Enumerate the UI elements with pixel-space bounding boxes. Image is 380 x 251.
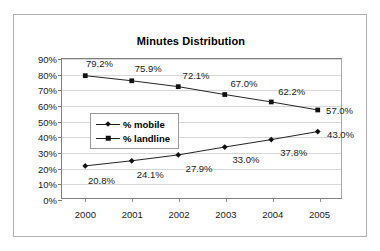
chart-legend: % mobile % landline xyxy=(90,113,179,149)
chart-frame: Minutes Distribution 0%10%20%30%40%50%60… xyxy=(13,14,367,237)
y-tick-label: 60% xyxy=(38,101,57,112)
data-label: 62.2% xyxy=(278,85,305,96)
data-label: 57.0% xyxy=(326,104,353,115)
data-label: 37.8% xyxy=(280,146,307,157)
diamond-marker-icon xyxy=(82,163,88,169)
y-tick-label: 70% xyxy=(38,85,57,96)
data-label: 79.2% xyxy=(86,57,113,68)
x-tick-label: 2002 xyxy=(169,209,190,220)
x-tick-mark xyxy=(179,198,180,202)
y-tick-label: 10% xyxy=(38,179,57,190)
diamond-marker-icon xyxy=(175,152,181,158)
square-marker-icon xyxy=(176,84,181,89)
data-label: 24.1% xyxy=(137,169,164,180)
x-tick-label: 2003 xyxy=(215,209,236,220)
legend-item-landline: % landline xyxy=(95,131,174,145)
x-tick-label: 2005 xyxy=(309,209,330,220)
x-tick-mark xyxy=(132,198,133,202)
diamond-marker-icon xyxy=(95,118,121,130)
square-marker-icon xyxy=(222,92,227,97)
y-tick-label: 40% xyxy=(38,132,57,143)
data-label: 33.0% xyxy=(232,154,259,165)
square-marker-icon xyxy=(269,100,274,105)
y-tick-label: 80% xyxy=(38,69,57,80)
x-tick-label: 2004 xyxy=(262,209,283,220)
chart-title: Minutes Distribution xyxy=(14,35,368,47)
x-tick-mark xyxy=(226,198,227,202)
y-tick-label: 30% xyxy=(38,148,57,159)
x-tick-label: 2000 xyxy=(75,209,96,220)
x-tick-mark xyxy=(273,198,274,202)
data-label: 72.1% xyxy=(183,70,210,81)
square-marker-icon xyxy=(95,132,121,144)
x-tick-label: 2001 xyxy=(122,209,143,220)
y-tick-label: 50% xyxy=(38,116,57,127)
diamond-marker-icon xyxy=(268,137,274,143)
square-marker-icon xyxy=(83,73,88,78)
square-marker-icon xyxy=(315,108,320,113)
diamond-marker-icon xyxy=(222,144,228,150)
legend-item-mobile: % mobile xyxy=(95,117,174,131)
x-tick-mark xyxy=(85,198,86,202)
data-label: 75.9% xyxy=(135,63,162,74)
data-label: 67.0% xyxy=(230,78,257,89)
y-tick-mark xyxy=(58,200,62,201)
legend-label-landline: % landline xyxy=(123,133,170,144)
y-tick-label: 90% xyxy=(38,54,57,65)
data-label: 43.0% xyxy=(327,128,354,139)
diamond-marker-icon xyxy=(129,158,135,164)
legend-label-mobile: % mobile xyxy=(123,119,165,130)
y-tick-label: 20% xyxy=(38,163,57,174)
x-tick-mark xyxy=(320,198,321,202)
data-label: 20.8% xyxy=(88,175,115,186)
square-marker-icon xyxy=(129,78,134,83)
data-label: 27.9% xyxy=(186,163,213,174)
diamond-marker-icon xyxy=(315,129,321,135)
y-tick-label: 0% xyxy=(43,195,57,206)
